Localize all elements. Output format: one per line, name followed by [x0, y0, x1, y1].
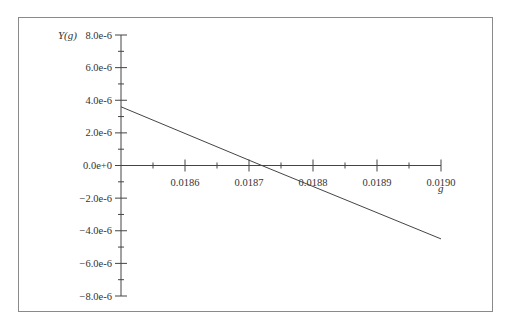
x-axis-title: g — [438, 182, 444, 194]
line-chart: 8.0e-66.0e-64.0e-62.0e-60.0e+0−2.0e-6−4.… — [0, 0, 507, 328]
y-tick-label: 8.0e-6 — [85, 30, 112, 41]
y-tick-label: −6.0e-6 — [80, 258, 112, 269]
x-tick-label: 0.0186 — [171, 177, 200, 188]
y-tick-label: −8.0e-6 — [80, 291, 112, 302]
x-tick-label: 0.0189 — [363, 177, 392, 188]
y-tick-label: 2.0e-6 — [85, 127, 112, 138]
series-line — [121, 107, 441, 239]
y-tick-label: −4.0e-6 — [80, 225, 112, 236]
x-tick-label: 0.0187 — [235, 177, 264, 188]
y-tick-label: 6.0e-6 — [85, 62, 112, 73]
y-tick-label: −2.0e-6 — [80, 193, 112, 204]
y-tick-label: 4.0e-6 — [85, 95, 112, 106]
y-tick-label: 0.0e+0 — [83, 160, 112, 171]
y-axis-title: Y(g) — [58, 29, 77, 42]
